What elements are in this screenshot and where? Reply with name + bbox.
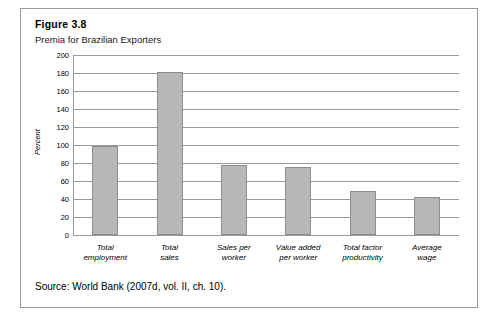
- x-axis-tick-label: Value added per worker: [266, 243, 330, 263]
- bar: [92, 146, 118, 235]
- y-axis-tick-label: 160: [56, 91, 69, 92]
- x-axis-tick-label: Average wage: [395, 243, 459, 263]
- gridline: 160: [73, 91, 459, 92]
- y-axis-label: Percent: [33, 95, 42, 155]
- y-axis-tick-label: 200: [56, 55, 69, 56]
- gridline: 60: [73, 181, 459, 182]
- gridline: 180: [73, 73, 459, 74]
- y-axis-tick-label: 120: [56, 127, 69, 128]
- source-note: Source: World Bank (2007d, vol. II, ch. …: [35, 281, 226, 292]
- gridline: 40: [73, 199, 459, 200]
- x-axis-tick-label: Sales per worker: [202, 243, 266, 263]
- chart-plot-area: Percent 020406080100120140160180200 Tota…: [35, 51, 465, 273]
- y-axis-tick-label: 140: [56, 109, 69, 110]
- gridline: 80: [73, 163, 459, 164]
- y-axis-tick-label: 180: [56, 73, 69, 74]
- y-axis-tick-label: 40: [61, 199, 69, 200]
- gridline: 20: [73, 217, 459, 218]
- x-axis-tick-label: Total factor productivity: [330, 243, 394, 263]
- gridline: 140: [73, 109, 459, 110]
- figure-title: Premia for Brazilian Exporters: [35, 34, 161, 45]
- y-axis-tick-label: 100: [56, 145, 69, 146]
- x-axis-tick-label: Total sales: [137, 243, 201, 263]
- bar: [350, 191, 376, 235]
- bar: [414, 197, 440, 235]
- gridline: 100: [73, 145, 459, 146]
- gridline: 120: [73, 127, 459, 128]
- gridline: 200: [73, 55, 459, 56]
- y-axis-tick-label: 80: [61, 163, 69, 164]
- bar: [157, 72, 183, 235]
- x-axis-tick-label: Total employment: [73, 243, 137, 263]
- figure-container: Figure 3.8 Premia for Brazilian Exporter…: [20, 8, 478, 308]
- gridline: 0: [73, 235, 459, 236]
- y-axis-tick-label: 0: [65, 235, 69, 236]
- y-axis-tick-label: 20: [61, 217, 69, 218]
- y-axis-tick-label: 60: [61, 181, 69, 182]
- chart-axes: 020406080100120140160180200 Total employ…: [73, 55, 459, 235]
- figure-number: Figure 3.8: [35, 18, 87, 30]
- bar: [221, 165, 247, 235]
- bar: [285, 167, 311, 235]
